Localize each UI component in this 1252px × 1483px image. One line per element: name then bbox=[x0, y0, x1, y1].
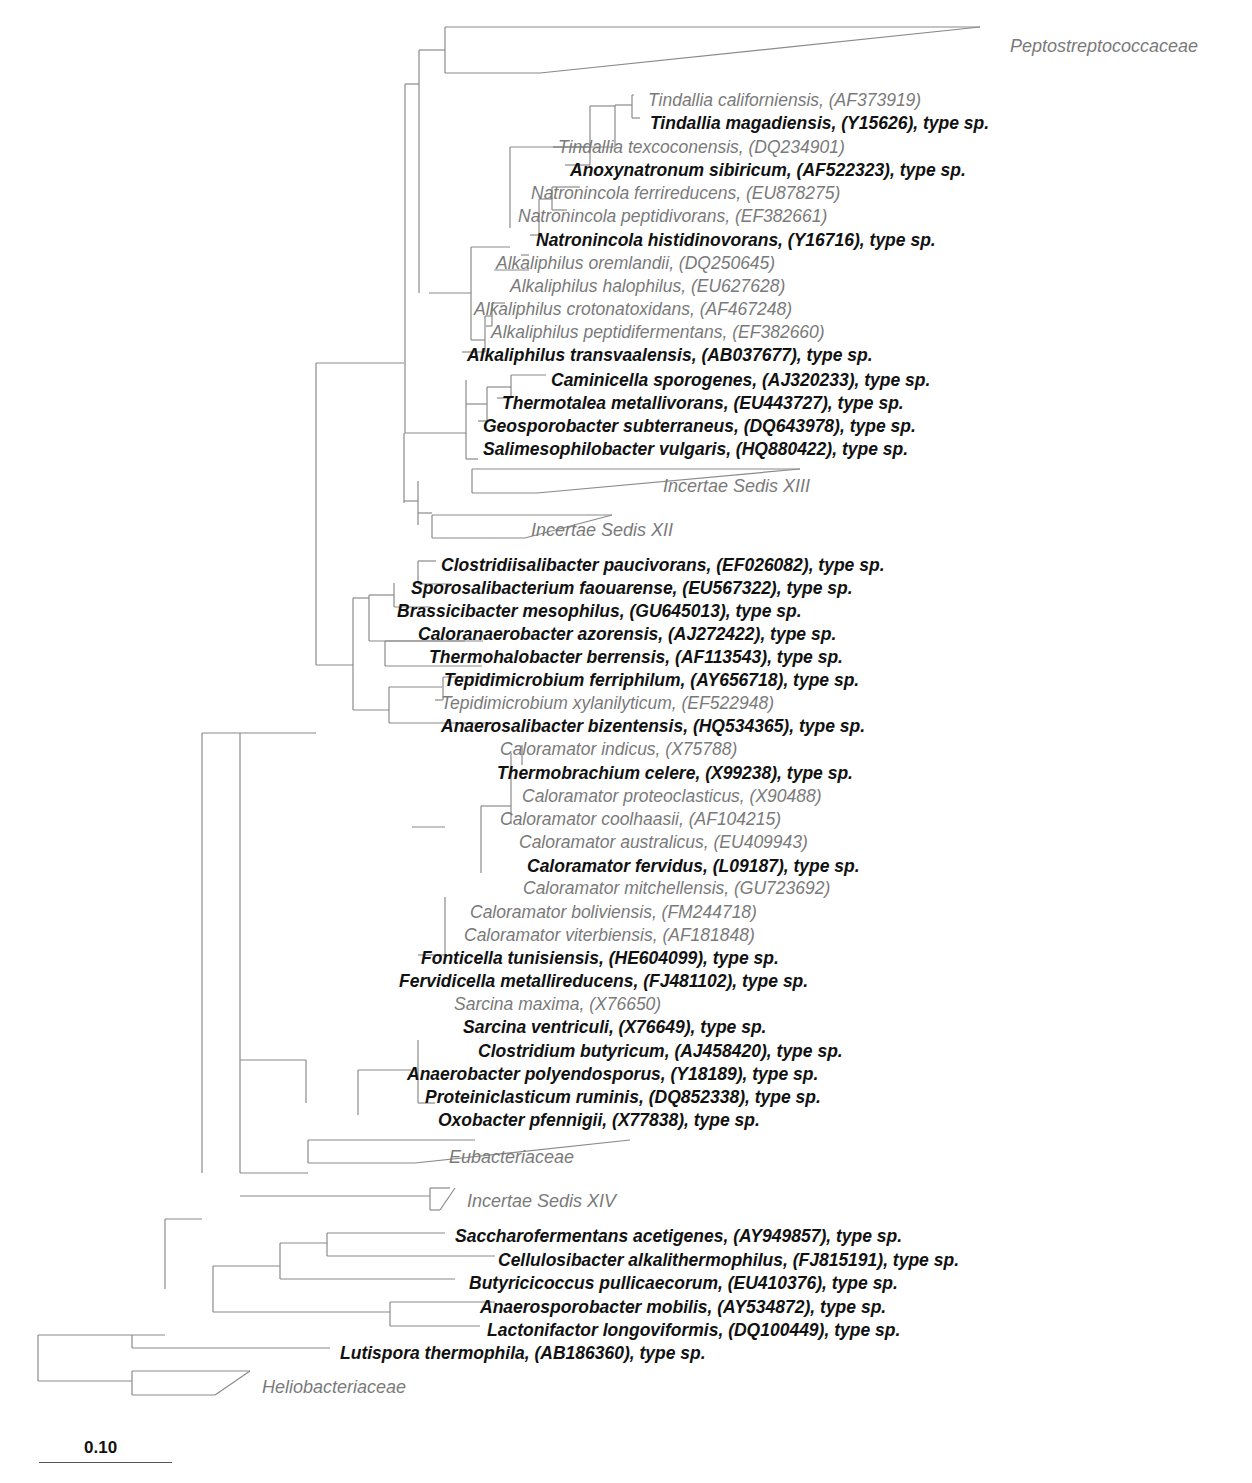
collapsed-clade-label: Incertae Sedis XII bbox=[531, 520, 673, 540]
taxon-label: Saccharofermentans acetigenes, (AY949857… bbox=[455, 1226, 902, 1246]
taxon-label: Anaerosporobacter mobilis, (AY534872), t… bbox=[480, 1297, 886, 1317]
tree-branch bbox=[215, 1371, 250, 1395]
taxon-label: Cellulosibacter alkalithermophilus, (FJ8… bbox=[498, 1250, 959, 1270]
collapsed-clade-label: Incertae Sedis XIII bbox=[663, 476, 810, 496]
collapsed-clade-label: Incertae Sedis XIV bbox=[467, 1191, 616, 1211]
taxon-label: Sarcina maxima, (X76650) bbox=[454, 994, 661, 1014]
scale-bar-label: 0.10 bbox=[84, 1438, 117, 1458]
taxon-label: Tindallia texcoconensis, (DQ234901) bbox=[558, 137, 845, 157]
taxon-label: Caloramator boliviensis, (FM244718) bbox=[470, 902, 757, 922]
taxon-label: Alkaliphilus oremlandii, (DQ250645) bbox=[496, 253, 775, 273]
collapsed-clade-label: Peptostreptococcaceae bbox=[1010, 36, 1198, 56]
taxon-label: Natronincola histidinovorans, (Y16716), … bbox=[536, 230, 936, 250]
taxon-label: Proteiniclasticum ruminis, (DQ852338), t… bbox=[425, 1087, 821, 1107]
taxon-label: Tindallia magadiensis, (Y15626), type sp… bbox=[650, 113, 989, 133]
taxon-label: Caloramator fervidus, (L09187), type sp. bbox=[527, 856, 860, 876]
taxon-label: Geosporobacter subterraneus, (DQ643978),… bbox=[483, 416, 916, 436]
taxon-label: Oxobacter pfennigii, (X77838), type sp. bbox=[438, 1110, 760, 1130]
taxon-label: Fervidicella metallireducens, (FJ481102)… bbox=[399, 971, 808, 991]
taxon-label: Caminicella sporogenes, (AJ320233), type… bbox=[551, 370, 930, 390]
taxon-label: Anoxynatronum sibiricum, (AF522323), typ… bbox=[570, 160, 966, 180]
taxon-label: Alkaliphilus crotonatoxidans, (AF467248) bbox=[474, 299, 792, 319]
taxon-label: Lutispora thermophila, (AB186360), type … bbox=[340, 1343, 706, 1363]
taxon-label: Tepidimicrobium ferriphilum, (AY656718),… bbox=[444, 670, 859, 690]
taxon-label: Anaerobacter polyendosporus, (Y18189), t… bbox=[407, 1064, 818, 1084]
tree-branch bbox=[440, 1188, 455, 1210]
taxon-label: Alkaliphilus transvaalensis, (AB037677),… bbox=[467, 345, 873, 365]
taxon-label: Caloramator viterbiensis, (AF181848) bbox=[464, 925, 755, 945]
taxon-label: Natronincola ferrireducens, (EU878275) bbox=[531, 183, 840, 203]
taxon-label: Alkaliphilus peptidifermentans, (EF38266… bbox=[491, 322, 825, 342]
taxon-label: Clostridiisalibacter paucivorans, (EF026… bbox=[441, 555, 885, 575]
taxon-label: Butyricicoccus pullicaecorum, (EU410376)… bbox=[469, 1273, 898, 1293]
taxon-label: Caloramator indicus, (X75788) bbox=[500, 739, 737, 759]
taxon-label: Clostridium butyricum, (AJ458420), type … bbox=[478, 1041, 843, 1061]
taxon-label: Lactonifactor longoviformis, (DQ100449),… bbox=[487, 1320, 900, 1340]
taxon-label: Caloranaerobacter azorensis, (AJ272422),… bbox=[418, 624, 836, 644]
scale-bar bbox=[39, 1462, 172, 1463]
taxon-label: Caloramator australicus, (EU409943) bbox=[519, 832, 808, 852]
taxon-label: Sporosalibacterium faouarense, (EU567322… bbox=[411, 578, 853, 598]
taxon-label: Thermohalobacter berrensis, (AF113543), … bbox=[429, 647, 843, 667]
taxon-label: Alkaliphilus halophilus, (EU627628) bbox=[510, 276, 785, 296]
taxon-label: Caloramator coolhaasii, (AF104215) bbox=[500, 809, 781, 829]
taxon-label: Thermobrachium celere, (X99238), type sp… bbox=[497, 763, 853, 783]
taxon-label: Tepidimicrobium xylanilyticum, (EF522948… bbox=[441, 693, 774, 713]
collapsed-clade-label: Heliobacteriaceae bbox=[262, 1377, 406, 1397]
taxon-label: Brassicibacter mesophilus, (GU645013), t… bbox=[397, 601, 802, 621]
taxon-label: Anaerosalibacter bizentensis, (HQ534365)… bbox=[441, 716, 865, 736]
taxon-label: Sarcina ventriculi, (X76649), type sp. bbox=[463, 1017, 766, 1037]
taxon-label: Fonticella tunisiensis, (HE604099), type… bbox=[421, 948, 779, 968]
taxon-label: Caloramator mitchellensis, (GU723692) bbox=[523, 878, 830, 898]
collapsed-clade-label: Eubacteriaceae bbox=[449, 1147, 574, 1167]
taxon-label: Tindallia californiensis, (AF373919) bbox=[648, 90, 921, 110]
taxon-label: Caloramator proteoclasticus, (X90488) bbox=[522, 786, 822, 806]
taxon-label: Thermotalea metallivorans, (EU443727), t… bbox=[502, 393, 904, 413]
taxon-label: Natronincola peptidivorans, (EF382661) bbox=[518, 206, 827, 226]
taxon-label: Salimesophilobacter vulgaris, (HQ880422)… bbox=[483, 439, 908, 459]
tree-branch bbox=[540, 27, 980, 73]
